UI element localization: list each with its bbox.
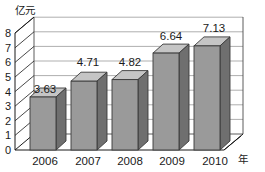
value-label-2009: 6.64 [160,30,183,42]
y-tick-1: 1 [5,129,11,141]
y-axis-ticks: 0 1 2 3 4 5 6 7 8 [5,27,11,156]
y-tick-7: 7 [5,42,11,54]
x-label-2006: 2006 [32,155,58,167]
y-tick-8: 8 [5,27,11,39]
y-axis-unit-label: 亿元 [15,4,36,16]
x-axis-labels: 2006 2007 2008 2009 2010 [32,155,228,167]
chart-title-clipped [58,0,203,5]
bar-2009 [153,44,189,150]
y-tick-5: 5 [5,71,11,83]
value-label-2006: 3.63 [34,83,56,95]
bar-2010 [194,37,230,150]
x-label-2007: 2007 [75,155,101,167]
y-tick-3: 3 [5,100,11,112]
x-label-2009: 2009 [159,155,185,167]
value-label-2007: 4.71 [77,56,99,68]
y-tick-0: 0 [5,144,11,156]
chart-canvas: 0 1 2 3 4 5 6 7 8 亿元 [0,0,265,172]
bar-2007 [71,72,107,150]
x-label-2008: 2008 [117,155,143,167]
bar-2006 [30,88,66,150]
x-axis-unit-label: 年 [238,153,248,165]
y-tick-6: 6 [5,56,11,68]
bar-2008 [112,71,148,150]
bar-chart: 0 1 2 3 4 5 6 7 8 亿元 [0,0,265,172]
y-tick-4: 4 [5,86,11,98]
value-label-2010: 7.13 [203,22,225,34]
y-tick-2: 2 [5,115,11,127]
value-label-2008: 4.82 [119,56,141,68]
x-label-2010: 2010 [202,155,228,167]
